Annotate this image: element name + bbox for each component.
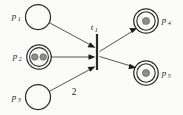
arc-p1-to-t1-arrowhead [88,42,96,47]
petri-net-diagram: 2 t 1 p 1 p 2 [0,0,183,115]
transition-t1-label-subscript: 1 [95,26,98,33]
arc-t1-to-p4-line [100,31,134,52]
place-p4-label: p [161,15,167,25]
arc-p1-to-t1 [49,23,95,48]
place-p2[interactable]: p 2 [12,45,51,69]
arc-p3-to-t1: 2 [49,66,95,97]
place-p1-label: p [11,11,17,21]
place-p4-token-1 [142,17,149,24]
place-p1[interactable]: p 1 [11,5,51,30]
place-p3[interactable]: p 3 [11,85,51,110]
place-p5-label: p [161,68,167,78]
place-p2-label: p [12,51,18,61]
place-p5-token-1 [142,69,149,76]
arc-p1-to-t1-line [49,23,91,46]
place-p4-label-subscript: 4 [168,19,171,26]
arc-t1-to-p4 [100,28,138,52]
place-p5-label-subscript: 5 [168,72,171,79]
arc-p3-to-t1-line [49,69,91,92]
place-p1-label-subscript: 1 [18,15,21,22]
arc-p3-to-t1-arrowhead [88,66,96,71]
place-p4[interactable]: p 4 [134,9,171,33]
place-p2-token-2 [40,54,47,61]
place-p3-label-subscript: 3 [17,96,21,103]
arc-t1-to-p5-line [100,57,133,67]
place-p5[interactable]: p 5 [134,61,171,85]
arc-p2-to-t1 [51,54,95,60]
petri-net-canvas: 2 t 1 p 1 p 2 [0,0,183,115]
transition-t1-label: t [91,22,94,32]
arc-t1-to-p5 [100,57,137,70]
place-p3-outer-ring[interactable] [26,85,51,110]
place-p3-label: p [11,92,17,102]
place-p2-outer-ring[interactable] [27,45,51,69]
arc-p2-to-t1-arrowhead [89,54,96,60]
arc-weight-label: 2 [72,87,77,97]
place-p2-token-1 [32,54,39,61]
place-p2-label-subscript: 2 [19,55,22,62]
place-p1-outer-ring[interactable] [26,5,51,30]
